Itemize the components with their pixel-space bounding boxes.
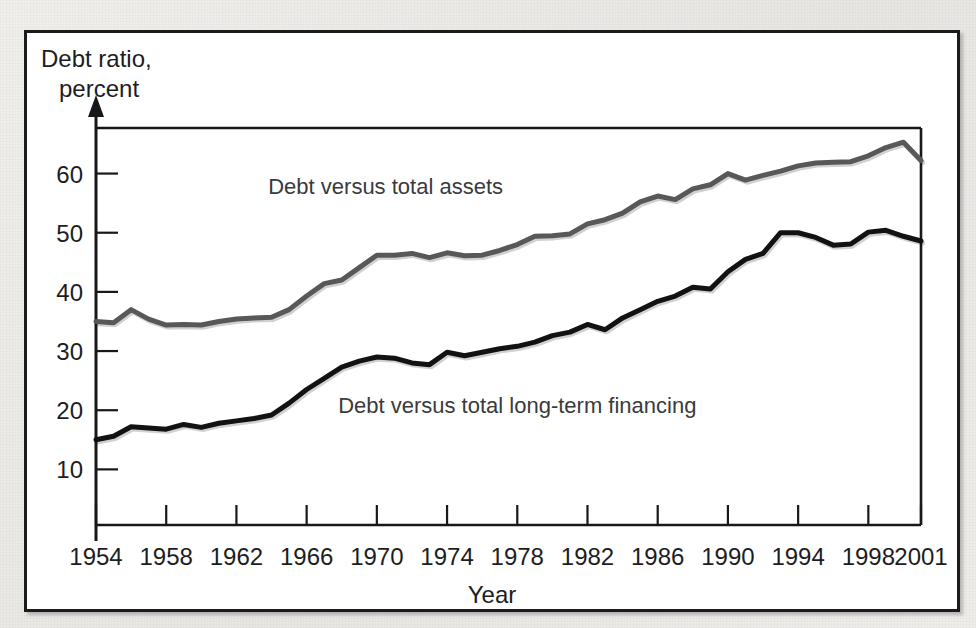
x-tick-1966: 1966 — [280, 505, 333, 570]
y-tick-label: 40 — [56, 279, 83, 306]
figure-frame: Debt ratio, percent 102030405060 1954195… — [24, 30, 960, 612]
x-tick-1970: 1970 — [350, 505, 403, 570]
x-tick-label: 1954 — [69, 543, 122, 570]
y-axis-title-line2: percent — [59, 75, 139, 102]
y-tick-40: 40 — [56, 279, 118, 306]
y-tick-30: 30 — [56, 338, 118, 365]
x-tick-label: 1978 — [491, 543, 544, 570]
x-tick-label: 1982 — [561, 543, 614, 570]
x-tick-label: 1986 — [631, 543, 684, 570]
x-tick-1986: 1986 — [631, 505, 684, 570]
debt-ratio-line-chart: Debt ratio, percent 102030405060 1954195… — [27, 33, 957, 609]
x-tick-1962: 1962 — [210, 505, 263, 570]
x-axis-ticks: 1954195819621966197019741978198219861990… — [69, 505, 947, 570]
x-tick-1958: 1958 — [140, 505, 193, 570]
figure-page: Debt ratio, percent 102030405060 1954195… — [0, 0, 976, 628]
x-tick-2001: 2001 — [894, 505, 947, 570]
y-tick-20: 20 — [56, 397, 118, 424]
x-tick-label: 1990 — [701, 543, 754, 570]
x-axis-title: Year — [468, 581, 517, 608]
series-annotation-2: Debt versus total long-term financing — [338, 393, 696, 418]
y-tick-60: 60 — [56, 161, 118, 188]
x-tick-1998: 1998 — [842, 505, 895, 570]
y-tick-label: 50 — [56, 220, 83, 247]
x-tick-label: 1998 — [842, 543, 895, 570]
y-tick-label: 60 — [56, 161, 83, 188]
y-axis-title-line1: Debt ratio, — [41, 45, 152, 72]
x-tick-1974: 1974 — [420, 505, 473, 570]
x-tick-label: 1958 — [140, 543, 193, 570]
x-tick-1978: 1978 — [491, 505, 544, 570]
x-tick-1982: 1982 — [561, 505, 614, 570]
x-tick-1990: 1990 — [701, 505, 754, 570]
series-annotation-1: Debt versus total assets — [268, 174, 503, 199]
x-tick-label: 1974 — [420, 543, 473, 570]
y-tick-50: 50 — [56, 220, 118, 247]
x-tick-label: 1970 — [350, 543, 403, 570]
y-tick-10: 10 — [56, 456, 118, 483]
x-tick-label: 2001 — [894, 543, 947, 570]
y-tick-label: 20 — [56, 397, 83, 424]
y-tick-label: 10 — [56, 456, 83, 483]
y-tick-label: 30 — [56, 338, 83, 365]
plot-border — [96, 128, 921, 525]
x-tick-label: 1966 — [280, 543, 333, 570]
y-axis — [88, 95, 104, 541]
x-tick-label: 1994 — [771, 543, 824, 570]
x-tick-1994: 1994 — [771, 505, 824, 570]
x-tick-label: 1962 — [210, 543, 263, 570]
